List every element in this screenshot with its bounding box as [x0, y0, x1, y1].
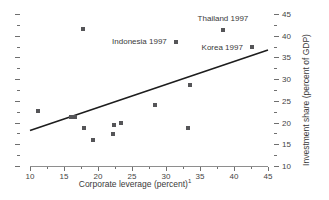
left-tick-major [15, 79, 20, 80]
x-tick-major [64, 167, 65, 171]
point-annotation: Korea 1997 [202, 43, 243, 52]
right-tick-label: 45 [282, 10, 291, 19]
x-axis-title: Corporate leverage (percent)1 [0, 178, 270, 189]
left-tick-major [15, 14, 20, 15]
right-tick-major [274, 79, 279, 80]
right-tick-label: 25 [282, 96, 291, 105]
data-point [82, 126, 86, 130]
data-point [36, 109, 40, 113]
data-point [153, 103, 157, 107]
right-tick-label: 35 [282, 53, 291, 62]
right-tick-minor [274, 68, 277, 69]
point-annotation: Indonesia 1997 [112, 37, 167, 46]
data-point [73, 115, 77, 119]
right-tick-minor [274, 90, 277, 91]
right-tick-minor [274, 112, 277, 113]
left-tick-major [15, 101, 20, 102]
data-point [186, 126, 190, 130]
left-tick-minor [17, 133, 20, 134]
data-point [112, 123, 116, 127]
scatter-chart-figure: 1015202530354045 1015202530354045 Corpor… [0, 0, 329, 200]
x-tick-minor [251, 167, 252, 169]
x-tick-major [234, 167, 235, 171]
left-tick-minor [17, 68, 20, 69]
left-tick-minor [17, 90, 20, 91]
data-point [81, 27, 85, 31]
right-tick-minor [274, 133, 277, 134]
x-tick-major [132, 167, 133, 171]
data-point [174, 40, 178, 44]
left-tick-minor [17, 25, 20, 26]
x-tick-minor [81, 167, 82, 169]
right-tick-major [274, 166, 279, 167]
data-point [250, 45, 254, 49]
x-tick-major [166, 167, 167, 171]
left-tick-minor [17, 112, 20, 113]
left-tick-major [15, 144, 20, 145]
x-tick-minor [115, 167, 116, 169]
left-tick-major [15, 36, 20, 37]
x-tick-major [30, 167, 31, 171]
x-tick-minor [149, 167, 150, 169]
data-point [119, 121, 123, 125]
left-tick-major [15, 57, 20, 58]
x-tick-major [200, 167, 201, 171]
x-tick-minor [217, 167, 218, 169]
right-tick-minor [274, 25, 277, 26]
data-point [111, 132, 115, 136]
data-point [188, 83, 192, 87]
x-tick-minor [183, 167, 184, 169]
right-tick-major [274, 144, 279, 145]
right-tick-major [274, 123, 279, 124]
right-tick-label: 10 [282, 162, 291, 171]
right-tick-major [274, 14, 279, 15]
data-point [221, 28, 225, 32]
x-tick-major [98, 167, 99, 171]
right-tick-label: 20 [282, 118, 291, 127]
x-tick-major [268, 167, 269, 171]
right-tick-major [274, 101, 279, 102]
left-tick-major [15, 166, 20, 167]
right-tick-label: 30 [282, 75, 291, 84]
left-tick-minor [17, 155, 20, 156]
right-tick-label: 15 [282, 140, 291, 149]
right-tick-major [274, 36, 279, 37]
left-tick-major [15, 123, 20, 124]
x-tick-minor [47, 167, 48, 169]
x-axis-title-footnote: 1 [188, 178, 191, 184]
y-axis-title: Investment share (percent of GDP) [301, 34, 311, 166]
right-tick-label: 40 [282, 31, 291, 40]
point-annotation: Thailand 1997 [198, 14, 249, 23]
left-tick-minor [17, 47, 20, 48]
data-point [91, 138, 95, 142]
x-axis-title-text: Corporate leverage (percent) [79, 179, 188, 189]
right-tick-minor [274, 47, 277, 48]
right-tick-major [274, 57, 279, 58]
right-tick-minor [274, 155, 277, 156]
